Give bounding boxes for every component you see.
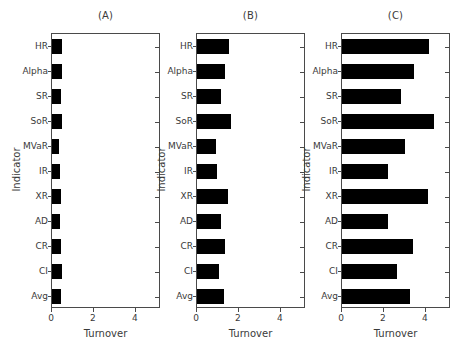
- y-tick-label: Avg: [321, 291, 338, 301]
- x-tick-mark: [383, 308, 384, 312]
- bar-ir: [342, 164, 388, 180]
- y-tick-mark: [445, 222, 449, 223]
- y-tick-label: CI: [329, 266, 338, 276]
- bar-sr: [342, 89, 401, 105]
- y-tick-mark: [338, 246, 342, 247]
- bar-mvar: [342, 139, 405, 155]
- y-tick-mark: [338, 171, 342, 172]
- y-tick-label: SoR: [321, 116, 338, 126]
- y-tick-mark: [445, 197, 449, 198]
- bar-cr: [342, 239, 413, 255]
- bar-ad: [342, 214, 388, 230]
- x-tick-mark: [425, 308, 426, 312]
- y-tick-mark: [445, 272, 449, 273]
- bar-xr: [342, 189, 428, 205]
- bar-avg: [342, 289, 410, 305]
- y-tick-mark: [338, 121, 342, 122]
- x-axis-title: Turnover: [374, 328, 418, 339]
- y-tick-label: IR: [329, 166, 338, 176]
- y-tick-mark: [445, 72, 449, 73]
- y-axis-title: Indicator: [301, 139, 312, 199]
- x-tick-mark: [341, 308, 342, 312]
- y-tick-label: HR: [325, 41, 338, 51]
- y-tick-label: CR: [325, 241, 338, 251]
- bars-layer: [342, 34, 449, 307]
- y-tick-mark: [338, 96, 342, 97]
- plot-area: [341, 33, 450, 308]
- y-tick-label: MVaR: [313, 141, 338, 151]
- figure-canvas: (A)HRAlphaSRSoRMVaRIRXRADCRCIAvg024Turno…: [0, 0, 460, 348]
- chart-panel: (C)HRAlphaSRSoRMVaRIRXRADCRCIAvg024Turno…: [0, 0, 460, 348]
- y-tick-mark: [445, 172, 449, 173]
- y-tick-label: SR: [326, 91, 338, 101]
- y-tick-mark: [445, 47, 449, 48]
- y-tick-mark: [338, 221, 342, 222]
- y-tick-mark: [338, 271, 342, 272]
- x-tick-label: 2: [380, 313, 386, 323]
- y-tick-mark: [338, 71, 342, 72]
- panel-title: (C): [341, 10, 450, 21]
- bar-alpha: [342, 64, 414, 80]
- y-tick-label: XR: [326, 191, 338, 201]
- bar-hr: [342, 39, 429, 55]
- bar-sor: [342, 114, 434, 130]
- y-tick-label: AD: [325, 216, 338, 226]
- bar-ci: [342, 264, 397, 280]
- y-tick-mark: [445, 97, 449, 98]
- x-tick-label: 4: [422, 313, 428, 323]
- y-tick-mark: [338, 146, 342, 147]
- y-tick-mark: [338, 46, 342, 47]
- y-tick-label: Alpha: [312, 66, 338, 76]
- y-tick-mark: [445, 297, 449, 298]
- y-tick-mark: [338, 296, 342, 297]
- x-tick-label: 0: [338, 313, 344, 323]
- y-tick-mark: [445, 147, 449, 148]
- y-tick-mark: [338, 196, 342, 197]
- y-tick-mark: [445, 122, 449, 123]
- y-tick-mark: [445, 247, 449, 248]
